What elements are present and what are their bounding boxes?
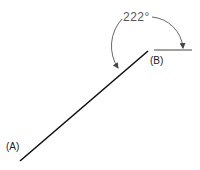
angle-label: 222°	[123, 11, 150, 23]
angle-arc-left	[111, 19, 122, 68]
point-b-label: (B)	[150, 56, 163, 66]
angle-arc-right	[152, 17, 183, 48]
diagram-canvas	[0, 0, 200, 170]
point-a-label: (A)	[6, 142, 19, 152]
line-segment-ab	[20, 51, 148, 161]
